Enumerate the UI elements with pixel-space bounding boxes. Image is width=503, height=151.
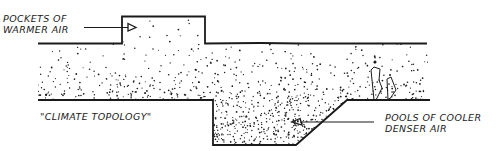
cool-air-label: POOLS OF COOLER DENSER AIR bbox=[385, 113, 481, 134]
upper-boundary-line bbox=[38, 17, 427, 44]
air-band-stipple bbox=[37, 43, 428, 100]
vertical-figures-icon bbox=[371, 61, 396, 101]
warm-air-label-line2: WARMER AIR bbox=[3, 25, 69, 36]
warm-air-label: POCKETS OF WARMER AIR bbox=[3, 14, 69, 35]
diagram-caption: "CLIMATE TOPOLOGY" bbox=[40, 112, 152, 123]
cool-air-label-line2: DENSER AIR bbox=[385, 124, 481, 135]
diagram-caption-text: "CLIMATE TOPOLOGY" bbox=[40, 112, 152, 123]
warm-air-label-line1: POCKETS OF bbox=[3, 14, 69, 25]
arrow-to-warm-pocket bbox=[84, 24, 136, 32]
warm-pocket-stipple bbox=[122, 20, 198, 43]
cool-air-label-line1: POOLS OF COOLER bbox=[385, 113, 481, 124]
